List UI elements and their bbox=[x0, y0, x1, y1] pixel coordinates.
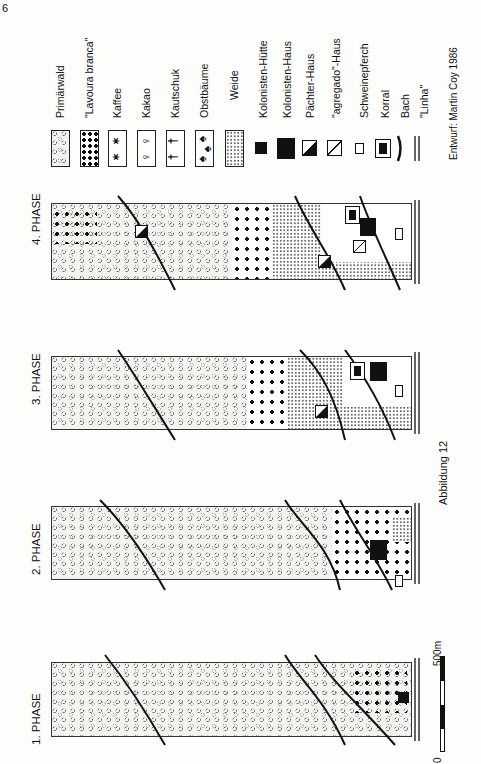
pigsty-icon bbox=[395, 385, 403, 397]
agregado-house-icon bbox=[353, 240, 366, 253]
corral-icon bbox=[345, 206, 360, 224]
figure-caption: Abbildung 12 bbox=[437, 441, 449, 505]
streams bbox=[100, 196, 400, 745]
map-overlay bbox=[0, 0, 481, 764]
tenant-house-icon bbox=[315, 405, 328, 418]
settler-house-icon bbox=[370, 540, 387, 560]
tenant-house-icon bbox=[318, 255, 331, 268]
corral-icon bbox=[350, 362, 365, 380]
scale-zero: 0 bbox=[432, 757, 443, 763]
pigsty-icon bbox=[395, 575, 403, 587]
figure-page: 6 Primärwald "Lavoura branca" ⁎ ⁎ Kaffee… bbox=[0, 0, 481, 764]
tenant-house-icon bbox=[135, 225, 148, 238]
settler-house-icon bbox=[360, 218, 376, 236]
linha-roads bbox=[415, 200, 419, 741]
settler-hut-icon bbox=[398, 692, 409, 703]
scale-max: 500m bbox=[432, 641, 443, 666]
pigsty-icon bbox=[395, 228, 403, 240]
settler-house-icon bbox=[370, 362, 387, 381]
